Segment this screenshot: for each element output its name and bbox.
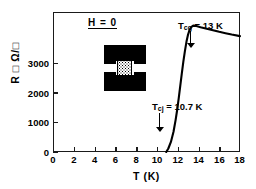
resistance-curve — [166, 26, 240, 152]
data-curve-svg — [0, 0, 256, 189]
figure-root: 0 2 4 6 8 10 12 14 16 18 3000 2000 1000 … — [0, 0, 256, 189]
